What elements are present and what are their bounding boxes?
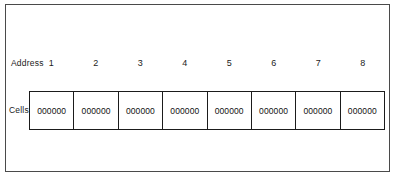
figure-frame [5,4,390,172]
memory-cell-value: 000000 [259,106,288,116]
memory-cell: 000000 [208,92,252,129]
memory-cells-figure: Address 1 2 3 4 5 6 7 8 Cells 000000 000… [0,0,405,182]
memory-cell: 000000 [74,92,118,129]
memory-cell: 000000 [296,92,340,129]
address-row: Address 1 2 3 4 5 6 7 8 [0,54,390,72]
memory-cell-value: 000000 [215,106,244,116]
memory-cell: 000000 [341,92,384,129]
memory-cell-value: 000000 [82,106,111,116]
address-number: 2 [74,54,119,72]
address-number: 5 [207,54,252,72]
memory-cell-value: 000000 [170,106,199,116]
memory-cell: 000000 [163,92,207,129]
address-number-list: 1 2 3 4 5 6 7 8 [29,54,385,72]
address-number: 7 [296,54,341,72]
memory-cell: 000000 [119,92,163,129]
memory-cell-value: 000000 [303,106,332,116]
address-number: 3 [118,54,163,72]
memory-cell: 000000 [252,92,296,129]
memory-cell-value: 000000 [348,106,377,116]
cells-row-label: Cells [9,101,29,119]
address-number: 1 [29,54,74,72]
address-number: 6 [252,54,297,72]
address-number: 8 [341,54,386,72]
cells-row: Cells 000000 000000 000000 000000 000000… [0,91,390,130]
memory-cell-value: 000000 [126,106,155,116]
memory-cell-value: 000000 [37,106,66,116]
address-number: 4 [163,54,208,72]
memory-cell-strip: 000000 000000 000000 000000 000000 00000… [29,91,385,130]
memory-cell: 000000 [30,92,74,129]
